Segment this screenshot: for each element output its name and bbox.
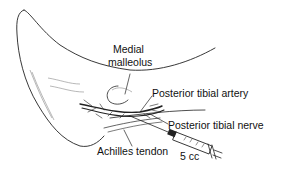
foot-outline <box>17 10 104 146</box>
leader-achilles <box>124 130 132 146</box>
foot-illustration: Medial malleolus Posterior tibial artery… <box>0 0 291 172</box>
label-posterior-tibial-artery: Posterior tibial artery <box>152 88 248 99</box>
label-medial: Medial <box>113 44 144 55</box>
posterior-tibial-artery <box>80 104 162 112</box>
leader-malleolus <box>125 74 130 94</box>
label-achilles-tendon: Achilles tendon <box>97 146 168 157</box>
label-posterior-tibial-nerve: Posterior tibial nerve <box>168 120 264 131</box>
needle <box>130 116 168 132</box>
label-syringe-volume: 5 cc <box>180 151 199 162</box>
heel-contour <box>30 70 52 118</box>
label-malleolus: malleolus <box>108 57 152 68</box>
